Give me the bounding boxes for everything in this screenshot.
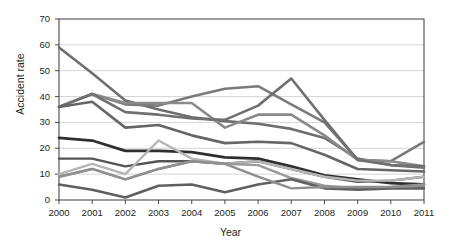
y-tick-label: 60 xyxy=(28,39,50,50)
y-tick-label: 30 xyxy=(28,116,50,127)
plot-frame xyxy=(59,19,424,200)
tick-marks xyxy=(55,19,424,204)
y-tick-label: 50 xyxy=(28,65,50,76)
y-tick-label: 40 xyxy=(28,91,50,102)
y-tick-label: 0 xyxy=(28,194,50,205)
series-line xyxy=(59,47,424,167)
x-tick-label: 2011 xyxy=(404,207,444,218)
y-tick-label: 70 xyxy=(28,13,50,24)
y-tick-label: 10 xyxy=(28,168,50,179)
y-tick-label: 20 xyxy=(28,142,50,153)
line-chart: Accident rate Year 010203040506070 20002… xyxy=(0,0,461,244)
gridlines xyxy=(59,45,424,174)
plot-border xyxy=(59,19,424,200)
